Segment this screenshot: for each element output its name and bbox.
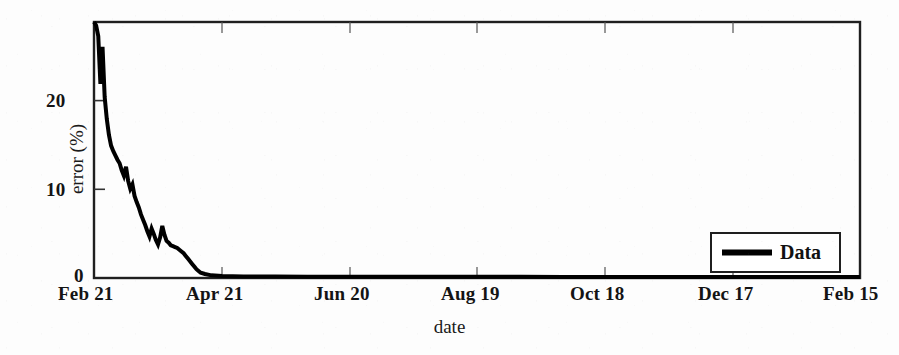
y-tick-marks (94, 101, 105, 190)
x-tick-marks (222, 22, 733, 278)
x-tick-label-jun20: Jun 20 (314, 283, 370, 305)
x-tick-label-dec17: Dec 17 (698, 283, 754, 305)
figure-canvas: Data 20 10 0 Feb 21 Apr 21 Jun 20 Aug 19… (0, 0, 899, 355)
x-tick-label-apr21: Apr 21 (186, 283, 243, 305)
y-tick-label-20: 20 (46, 90, 65, 112)
x-tick-label-oct18: Oct 18 (570, 283, 625, 305)
x-tick-label-feb15: Feb 15 (823, 283, 879, 305)
y-axis-title: error (%) (66, 74, 88, 244)
x-tick-label-aug19: Aug 19 (441, 283, 500, 305)
y-tick-label-10: 10 (46, 179, 65, 201)
legend-label-data: Data (780, 241, 821, 264)
x-tick-label-feb21: Feb 21 (58, 283, 114, 305)
x-axis-title: date (0, 316, 899, 338)
